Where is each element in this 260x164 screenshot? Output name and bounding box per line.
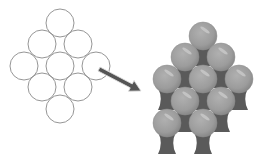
circle-8 xyxy=(46,95,74,123)
sphere-9 xyxy=(189,109,217,137)
sphere-6 xyxy=(171,87,199,115)
diagram-canvas xyxy=(0,0,260,164)
stacked-sphere-packing xyxy=(153,22,253,137)
sphere-4 xyxy=(189,65,217,93)
flat-circle-packing xyxy=(10,9,110,123)
sphere-2 xyxy=(207,43,235,71)
circle-6 xyxy=(28,73,56,101)
circle-2 xyxy=(64,30,92,58)
packing-diagram xyxy=(0,0,260,164)
sphere-3 xyxy=(153,65,181,93)
arrow-shape xyxy=(96,64,144,97)
sphere-5 xyxy=(225,65,253,93)
arrow-right-down-icon xyxy=(96,64,144,97)
circle-7 xyxy=(64,73,92,101)
sphere-1 xyxy=(171,43,199,71)
sphere-7 xyxy=(207,87,235,115)
sphere-8 xyxy=(153,109,181,137)
circle-1 xyxy=(28,30,56,58)
